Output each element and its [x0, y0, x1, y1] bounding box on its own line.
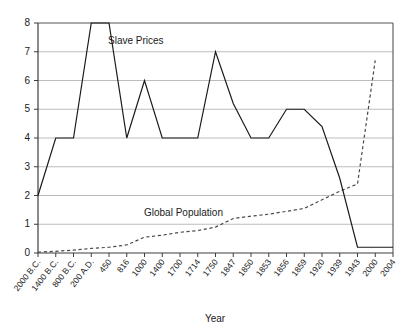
x-tick-label: 1000 — [130, 257, 150, 278]
gridlines — [38, 52, 393, 225]
x-tick-label: 1856 — [272, 257, 292, 278]
x-tick-label: 1700 — [165, 257, 185, 278]
x-tick-label: 1920 — [307, 257, 327, 278]
x-tick-label: 450 — [97, 257, 114, 275]
x-tick-label: 1943 — [343, 257, 363, 278]
y-tick-label: 7 — [24, 46, 30, 57]
x-tick-label: 1859 — [289, 257, 309, 278]
y-tick-label: 1 — [24, 218, 30, 229]
x-tick-label: 1750 — [201, 257, 221, 278]
x-tick-label: 1400 — [147, 257, 167, 278]
y-tick-label: 4 — [24, 132, 30, 143]
x-tick-label: 2000 — [360, 257, 380, 278]
x-axis-ticks: 2000 B.C.1400 B.C.800 B.C.200 A.D.450816… — [11, 253, 397, 293]
x-tick-label: 1939 — [325, 257, 345, 278]
y-tick-label: 6 — [24, 75, 30, 86]
series-line-global-population — [38, 60, 375, 252]
x-tick-label: 1850 — [236, 257, 256, 278]
y-axis-ticks: 012345678 — [24, 17, 38, 258]
y-tick-label: 2 — [24, 190, 30, 201]
line-chart: 012345678 2000 B.C.1400 B.C.800 B.C.200 … — [0, 0, 412, 333]
x-tick-label: 2004 — [378, 257, 398, 278]
y-tick-label: 0 — [24, 247, 30, 258]
x-axis-title: Year — [205, 313, 226, 324]
x-tick-label: 1853 — [254, 257, 274, 278]
y-tick-label: 5 — [24, 103, 30, 114]
y-tick-label: 8 — [24, 17, 30, 28]
x-tick-label: 1847 — [218, 257, 238, 278]
x-tick-label: 1714 — [183, 257, 203, 278]
y-tick-label: 3 — [24, 161, 30, 172]
chart-container: 012345678 2000 B.C.1400 B.C.800 B.C.200 … — [0, 0, 412, 333]
series-label-slave-prices: Slave Prices — [108, 35, 164, 46]
series-label-global-population: Global Population — [144, 207, 223, 218]
